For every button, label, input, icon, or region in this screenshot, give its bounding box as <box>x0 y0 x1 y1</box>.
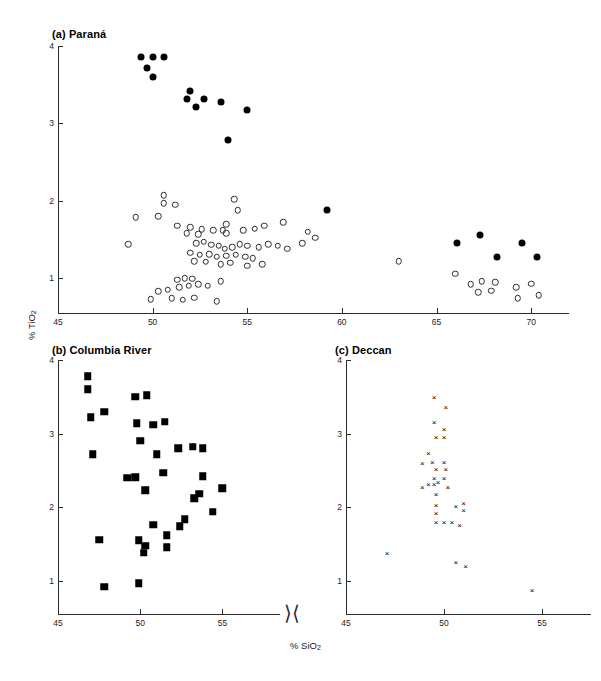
data-point-cross: × <box>435 479 442 486</box>
x-axis-break-symbol: ⟩⟨ <box>284 603 300 623</box>
data-point-filled-circle <box>518 240 525 247</box>
data-point-open-circle <box>488 287 495 294</box>
panel-deccan: (c) Deccan 4550551234×××××××××××××××××××… <box>330 330 601 681</box>
data-point-open-circle <box>240 227 247 234</box>
data-point-cross: × <box>529 586 536 593</box>
data-point-open-circle <box>528 280 535 287</box>
data-point-cross: × <box>452 558 459 565</box>
y-tick-label: 3 <box>42 429 54 439</box>
y-axis-columbia-river <box>58 360 59 614</box>
data-point-open-circle <box>284 246 291 253</box>
y-tick-label: 4 <box>42 355 54 365</box>
y-axis-parana <box>58 46 59 313</box>
y-tick-label: 4 <box>42 41 54 51</box>
data-point-open-circle <box>252 225 259 232</box>
data-point-open-circle <box>161 192 168 199</box>
x-tick <box>58 308 59 313</box>
data-point-open-circle <box>274 242 281 249</box>
data-point-open-circle <box>479 278 486 285</box>
data-point-filled-circle <box>200 95 207 102</box>
data-point-filled-square <box>95 536 103 544</box>
data-point-open-circle <box>280 219 287 226</box>
data-point-open-circle <box>312 235 319 242</box>
data-point-filled-circle <box>494 254 501 261</box>
y-tick-label: 4 <box>330 355 342 365</box>
data-point-open-circle <box>231 196 238 203</box>
data-point-filled-square <box>209 508 217 516</box>
data-point-open-circle <box>218 278 225 285</box>
data-point-open-circle <box>244 242 251 249</box>
y-tick-label: 1 <box>42 273 54 283</box>
y-tick-label: 2 <box>42 196 54 206</box>
data-point-open-circle <box>187 249 194 256</box>
y-tick-label: 2 <box>42 502 54 512</box>
data-point-open-circle <box>223 221 230 228</box>
data-point-open-circle <box>244 263 251 270</box>
x-axis-deccan <box>346 614 591 615</box>
plot-area-parana: 4550556065701234 <box>0 0 601 330</box>
data-point-filled-circle <box>149 73 156 80</box>
y-tick-label: 1 <box>330 576 342 586</box>
data-point-cross: × <box>442 465 449 472</box>
data-point-open-circle <box>227 259 234 266</box>
y-tick <box>58 46 63 47</box>
x-tick <box>342 308 343 313</box>
data-point-open-circle <box>452 270 459 277</box>
data-point-open-circle <box>492 279 499 286</box>
data-point-open-circle <box>206 251 213 258</box>
x-tick-label: 45 <box>53 317 62 327</box>
data-point-filled-square <box>84 372 92 380</box>
x-tick-label: 50 <box>135 618 144 628</box>
data-point-filled-square <box>89 450 97 458</box>
data-point-filled-square <box>163 543 171 551</box>
data-point-filled-circle <box>533 253 540 260</box>
data-point-filled-square <box>133 420 141 428</box>
data-point-open-circle <box>229 244 236 251</box>
data-point-cross: × <box>433 490 440 497</box>
data-point-filled-circle <box>183 96 190 103</box>
data-point-filled-square <box>141 487 149 495</box>
plot-area-deccan: 4550551234××××××××××××××××××××××××××××××… <box>330 330 601 681</box>
x-tick-label: 55 <box>243 317 252 327</box>
data-point-open-circle <box>299 240 306 247</box>
data-point-filled-circle <box>454 239 461 246</box>
data-point-open-circle <box>125 241 132 248</box>
y-tick <box>58 360 63 361</box>
data-point-cross: × <box>442 404 449 411</box>
data-point-open-circle <box>208 242 215 249</box>
data-point-cross: × <box>384 549 391 556</box>
data-point-cross: × <box>433 502 440 509</box>
data-point-cross: × <box>433 510 440 517</box>
data-point-filled-square <box>191 495 199 503</box>
data-point-filled-square <box>141 542 149 550</box>
data-point-filled-circle <box>193 104 200 111</box>
x-tick-label: 65 <box>432 317 441 327</box>
data-point-filled-circle <box>225 136 232 143</box>
y-tick <box>58 434 63 435</box>
data-point-cross: × <box>441 426 448 433</box>
data-point-filled-square <box>176 523 184 531</box>
data-point-open-circle <box>155 213 162 220</box>
data-point-filled-square <box>143 392 151 400</box>
x-tick-label: 50 <box>148 317 157 327</box>
data-point-open-circle <box>513 284 520 291</box>
x-tick <box>444 609 445 614</box>
y-tick <box>346 434 351 435</box>
data-point-filled-circle <box>244 107 251 114</box>
data-point-open-circle <box>195 231 202 238</box>
data-point-open-circle <box>233 252 240 259</box>
x-tick-label: 45 <box>341 618 350 628</box>
data-point-cross: × <box>456 521 463 528</box>
data-point-open-circle <box>176 284 183 291</box>
data-point-open-circle <box>174 222 181 229</box>
data-point-open-circle <box>214 298 221 305</box>
data-point-open-circle <box>223 230 230 237</box>
x-tick-label: 45 <box>53 618 62 628</box>
data-point-open-circle <box>185 283 192 290</box>
data-point-open-circle <box>259 261 266 268</box>
data-point-open-circle <box>218 261 225 268</box>
data-point-open-circle <box>165 287 172 294</box>
y-tick <box>58 201 63 202</box>
data-point-filled-square <box>100 583 108 591</box>
data-point-filled-circle <box>323 207 330 214</box>
